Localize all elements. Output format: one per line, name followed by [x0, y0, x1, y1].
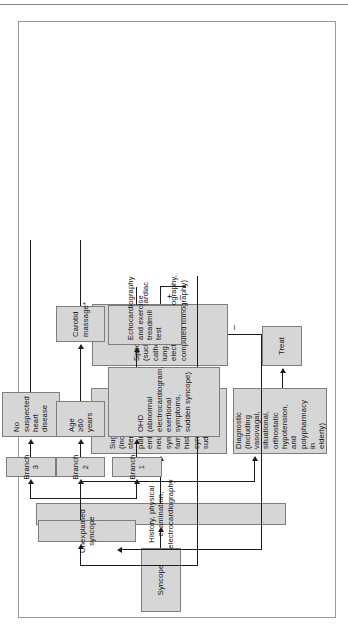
feedback-rail-specific	[261, 335, 262, 550]
edge-branch3-out	[30, 443, 31, 457]
edge-no-heart-disease-out	[30, 240, 31, 392]
edge-history-split-vertical	[80, 481, 255, 482]
arrowhead-echo	[134, 347, 140, 352]
edge-branch2-out	[80, 443, 81, 457]
node-ohd[interactable]: OHD (abnormal electrocardiogram, exertio…	[108, 367, 220, 437]
arrowhead-branch3-out	[28, 439, 34, 444]
arrowhead-branch2	[78, 479, 84, 484]
figure-page: Syncope History, physical examination, e…	[0, 0, 348, 644]
edge-specific-plus-down	[160, 286, 186, 287]
node-unexplained-syncope[interactable]: Unexplained syncope	[38, 520, 136, 542]
node-carotid-massage[interactable]: Carotid massage*	[56, 306, 105, 342]
node-age-60-years[interactable]: Age ≥60 years	[56, 401, 105, 437]
arrowhead-branch1-out	[134, 439, 140, 444]
feedback-rail-echo-up	[80, 565, 198, 566]
sign-plus-specific: +	[166, 294, 175, 299]
edge-diagnostic-to-treat	[282, 372, 283, 388]
page-top-rule	[0, 4, 348, 5]
node-treat[interactable]: Treat	[262, 326, 302, 366]
feedback-rail-specific-up	[122, 549, 262, 550]
flowchart-stage: Syncope History, physical examination, e…	[16, 22, 332, 622]
edge-to-branch3	[30, 483, 31, 499]
edge-branch-splitter	[30, 498, 81, 499]
node-branch-2[interactable]: Branch 2	[56, 457, 105, 477]
node-syncope[interactable]: Syncope	[141, 548, 181, 612]
edge-unexplained-out	[80, 498, 81, 520]
arrowhead-feedback-unexplained-a	[117, 547, 122, 553]
edge-to-branch2	[80, 483, 81, 499]
edge-to-diagnostic	[254, 460, 255, 482]
arrowhead-branch2-out	[78, 439, 84, 444]
edge-branch1-drop	[80, 498, 137, 499]
sign-minus-specific: –	[230, 325, 239, 330]
edge-ohd-to-echo	[136, 351, 137, 367]
edge-carotid-out	[80, 240, 81, 306]
node-branch-1[interactable]: Branch 1	[112, 457, 162, 477]
arrowhead-carotid	[78, 344, 84, 349]
edge-age60-to-carotid	[80, 348, 81, 401]
arrowhead-treat	[280, 368, 286, 373]
node-diagnostic[interactable]: Diagnostic (including vasovagal, situati…	[233, 388, 327, 454]
node-no-suspected-heart-disease[interactable]: No suspected heart disease	[2, 392, 60, 437]
edge-history-trunk	[160, 481, 161, 503]
edge-to-branch1	[136, 483, 137, 499]
node-branch-3[interactable]: Branch 3	[6, 457, 56, 477]
arrowhead-branch1	[134, 479, 140, 484]
arrowhead-branch3	[28, 479, 34, 484]
edge-branch1-out	[136, 443, 137, 457]
arrowhead-diagnostic	[252, 456, 258, 461]
sign-minus-echo: –	[176, 295, 185, 300]
node-echocardiography-treadmill[interactable]: Echocardiography and exercise treadmill …	[108, 305, 182, 345]
edge-specific-minus-down	[228, 334, 262, 335]
edge-echo-out	[136, 287, 137, 305]
